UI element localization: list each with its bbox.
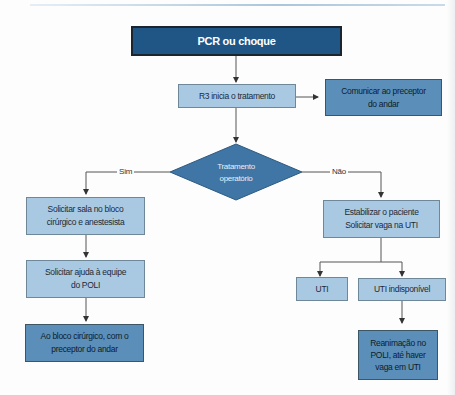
node-label-line2: preceptor do andar <box>51 343 117 356</box>
node-estabilizar-paciente: Estabilizar o paciente Solicitar vaga na… <box>323 200 440 238</box>
node-label-line1: Comunicar ao preceptor <box>341 85 426 98</box>
node-comunicar-preceptor: Comunicar ao preceptor do andar <box>325 79 442 116</box>
node-label-line1: Solicitar sala no bloco <box>48 203 124 216</box>
node-label: PCR ou choque <box>198 35 276 48</box>
node-label-line2: do andar <box>368 98 399 111</box>
node-label-line1: Reanimação no <box>370 337 426 349</box>
node-uti-indisponivel: UTI indisponível <box>358 278 446 301</box>
node-solicitar-sala: Solicitar sala no bloco cirúrgico e anes… <box>26 197 145 235</box>
node-label-line3: vaga em UTI <box>375 361 420 373</box>
node-ao-bloco-cirurgico: Ao bloco cirúrgico, com o preceptor do a… <box>25 324 144 362</box>
edge-label-sim: Sim <box>117 167 134 176</box>
node-solicitar-ajuda: Solicitar ajuda à equipe do POLI <box>26 260 145 298</box>
node-pcr-ou-choque: PCR ou choque <box>131 26 342 56</box>
node-label: UTI <box>316 283 329 296</box>
node-uti: UTI <box>296 277 348 301</box>
node-label: UTI indisponível <box>374 283 430 296</box>
node-r3-inicia-tratamento: R3 inicia o tratamento <box>178 84 296 108</box>
node-label-line1: Ao bloco cirúrgico, com o <box>41 330 129 343</box>
node-label: R3 inicia o tratamento <box>199 90 275 103</box>
node-label-line1: Estabilizar o paciente <box>344 206 418 219</box>
node-reanimacao-poli: Reanimação no POLI, até haver vaga em UT… <box>358 330 438 380</box>
decision-tratamento-operatorio: Tratamento operatório <box>196 160 276 186</box>
decision-label-line1: Tratamento <box>217 161 255 173</box>
node-label-line1: Solicitar ajuda à equipe <box>45 266 126 279</box>
node-label-line2: do POLI <box>71 279 100 292</box>
decision-label-line2: operatório <box>219 173 252 185</box>
node-label-line2: Solicitar vaga na UTI <box>345 219 418 232</box>
node-label-line2: POLI, até haver <box>370 349 425 361</box>
node-label-line2: cirúrgico e anestesista <box>47 216 125 229</box>
edge-label-nao: Não <box>330 167 348 176</box>
